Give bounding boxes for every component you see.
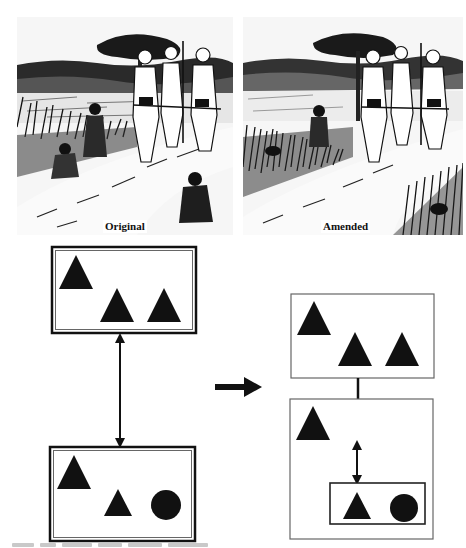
left-bottom-box — [50, 447, 195, 541]
transform-arrow — [215, 377, 262, 397]
triangle-shape — [59, 255, 93, 289]
original-illustration: Original — [17, 17, 233, 235]
original-label: Original — [103, 220, 147, 233]
triangle-shape — [297, 301, 331, 335]
triangle-shape — [100, 288, 134, 322]
amended-scene-drawing — [243, 17, 463, 235]
amended-illustration: Amended — [243, 17, 463, 235]
triangle-shape — [343, 492, 371, 519]
triangle-shape — [338, 332, 372, 366]
triangle-shape — [147, 288, 181, 322]
amended-label: Amended — [321, 220, 370, 233]
inner-box — [330, 483, 425, 524]
right-bottom-box — [290, 399, 433, 539]
original-scene-drawing — [17, 17, 233, 235]
triangle-shape — [296, 406, 330, 440]
circle-shape — [390, 494, 418, 522]
triangle-shape — [57, 455, 91, 489]
triangle-shape — [104, 489, 132, 516]
triangle-shape — [385, 332, 419, 366]
left-top-box — [52, 247, 196, 333]
figure-caption-partial — [12, 541, 222, 548]
right-top-box — [291, 294, 434, 378]
circle-shape — [151, 490, 181, 520]
